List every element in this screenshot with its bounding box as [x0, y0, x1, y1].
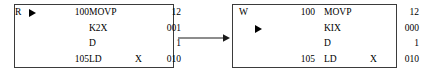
step-number [45, 36, 89, 52]
flag-spacer [233, 36, 255, 52]
instruction-operand: LD [315, 52, 370, 68]
marker-spacer [255, 52, 273, 68]
instruction-operand: MOVP [315, 5, 370, 21]
instruction-suboperand: X [370, 52, 383, 68]
instruction-operand: MOVP [89, 5, 135, 21]
flag-spacer [233, 21, 255, 37]
step-number [45, 21, 89, 37]
marker-spacer [29, 36, 45, 52]
instruction-operand: KIX [315, 21, 370, 37]
panel-flag-after: W [233, 5, 255, 21]
marker-spacer [29, 21, 45, 37]
right-arrow-icon [178, 30, 230, 42]
flag-spacer [233, 52, 255, 68]
table-row: KIX 000 [233, 21, 424, 37]
instruction-value: 001 [147, 21, 181, 37]
instruction-operand: D [315, 36, 370, 52]
instruction-suboperand [370, 36, 383, 52]
instruction-value: 010 [147, 52, 181, 68]
instruction-suboperand: X [135, 52, 147, 68]
right-triangle-icon [255, 21, 273, 37]
instruction-value: 12 [147, 5, 181, 21]
table-row: 105 LD X 010 [233, 52, 424, 68]
instruction-value: 1 [383, 36, 424, 52]
step-number: 105 [45, 52, 89, 68]
table-row: K2X 001 [15, 21, 181, 37]
marker-spacer [29, 52, 45, 68]
marker-spacer [255, 36, 273, 52]
instruction-suboperand [370, 21, 383, 37]
right-triangle-icon [29, 5, 45, 21]
instruction-value: 010 [383, 52, 424, 68]
step-number: 105 [273, 52, 315, 68]
instruction-suboperand [135, 21, 147, 37]
instruction-list-table-after: W 100 MOVP 12 KIX 000 [233, 5, 424, 67]
instruction-suboperand [135, 36, 147, 52]
instruction-suboperand [135, 5, 147, 21]
table-row: 105 LD X 010 [15, 52, 181, 68]
instruction-operand: K2X [89, 21, 135, 37]
step-number: 100 [273, 5, 315, 21]
table-row: R 100 MOVP 12 [15, 5, 181, 21]
table-row: D 1 [15, 36, 181, 52]
instruction-operand: LD [89, 52, 135, 68]
flag-spacer [15, 52, 29, 68]
marker-spacer [255, 5, 273, 21]
table-row: D 1 [233, 36, 424, 52]
step-number [273, 21, 315, 37]
step-number [273, 36, 315, 52]
instruction-value: 000 [383, 21, 424, 37]
table-row: W 100 MOVP 12 [233, 5, 424, 21]
instruction-operand: D [89, 36, 135, 52]
flag-spacer [15, 21, 29, 37]
instruction-value: 1 [147, 36, 181, 52]
instruction-list-table-before: R 100 MOVP 12 K2X 001 [15, 5, 181, 67]
flag-spacer [15, 36, 29, 52]
step-number: 100 [45, 5, 89, 21]
program-panel-after: W 100 MOVP 12 KIX 000 [232, 4, 397, 68]
panel-flag-before: R [15, 5, 29, 21]
program-panel-before: R 100 MOVP 12 K2X 001 [14, 4, 174, 68]
instruction-suboperand [370, 5, 383, 21]
instruction-value: 12 [383, 5, 424, 21]
